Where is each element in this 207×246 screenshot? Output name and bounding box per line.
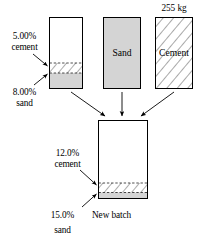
new-batch-container [99, 121, 148, 199]
new-cement-material-label: cement [42, 159, 93, 170]
arrow-cement-to-new [141, 92, 174, 116]
cement-mass-label: 255 kg [143, 3, 205, 14]
leader-original-sand [34, 74, 48, 85]
sand-container-label: Sand [103, 47, 141, 58]
mixture-diagram-figure: 255 kg Sand Cement 5.00% cement 8.00% sa… [0, 0, 207, 246]
leader-new-cement [80, 170, 97, 185]
flow-arrows [71, 92, 174, 116]
new-batch-caption: New batch [92, 210, 162, 221]
new-sand-material-label: sand [37, 225, 88, 236]
original-sand-material-label: sand [0, 98, 49, 109]
cement-container-label: Cement [151, 47, 197, 58]
original-batch-empty-region [50, 18, 83, 64]
original-cement-material-label: cement [0, 42, 49, 53]
leader-original-cement [33, 54, 48, 66]
leader-new-sand [82, 194, 97, 207]
new-sand-percent-label: 15.0% [37, 210, 88, 221]
original-sand-band [50, 73, 83, 89]
new-batch-empty-region [99, 121, 148, 184]
original-sand-percent-label: 8.00% [0, 87, 49, 98]
original-cement-band [50, 63, 83, 73]
new-cement-percent-label: 12.0% [42, 148, 93, 159]
original-cement-percent-label: 5.00% [0, 31, 49, 42]
new-sand-band [99, 193, 148, 199]
arrow-original-to-new [71, 92, 105, 116]
original-batch-container [50, 18, 83, 89]
new-cement-band [99, 183, 148, 193]
